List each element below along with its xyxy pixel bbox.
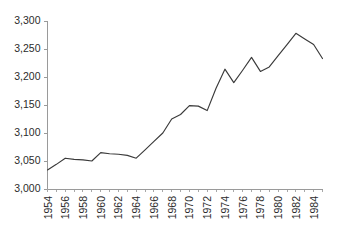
x-tick-label: 1962 [112,196,124,220]
x-tick-label: 1982 [290,196,302,220]
y-tick-label: 3,250 [14,42,40,54]
y-tick-label: 3,100 [14,126,40,138]
x-tick-label: 1984 [308,196,320,220]
x-tick-label: 1978 [254,196,266,220]
y-tick-label: 3,050 [14,154,40,166]
x-tick-label: 1954 [42,196,54,220]
y-tick-label: 3,200 [14,70,40,82]
x-tick-label: 1964 [130,196,142,220]
x-tick-label: 1958 [77,196,89,220]
x-tick-label: 1956 [59,196,71,220]
y-tick-label: 3,150 [14,98,40,110]
x-tick-label: 1966 [148,196,160,220]
y-tick-label: 3,000 [14,182,40,194]
x-tick-label: 1974 [219,196,231,220]
chart-canvas: 3,0003,0503,1003,1503,2003,2503,300 1954… [0,0,342,236]
line-chart: 3,0003,0503,1003,1503,2003,2503,300 1954… [0,0,342,236]
x-tick-label: 1972 [201,196,213,220]
x-tick-label: 1968 [166,196,178,220]
x-tick-label: 1970 [183,196,195,220]
y-tick-label: 3,300 [14,14,40,26]
x-tick-label: 1960 [95,196,107,220]
x-tick-label: 1976 [237,196,249,220]
x-tick-label: 1980 [272,196,284,220]
